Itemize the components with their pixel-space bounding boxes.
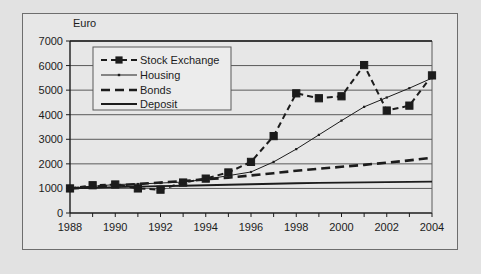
chart-legend: Stock ExchangeHousingBondsDeposit: [93, 47, 231, 110]
chart-frame: 01000200030004000500060007000 1988199019…: [22, 13, 458, 250]
data-point-marker: [406, 102, 413, 109]
line-chart: 01000200030004000500060007000 1988199019…: [23, 14, 457, 249]
x-tick-label: 2002: [375, 221, 399, 233]
data-point-marker: [270, 132, 277, 139]
data-point-marker: [273, 161, 275, 163]
y-tick-label: 5000: [39, 84, 63, 96]
x-axis-tick-labels: 198819901992199419961998200020022004: [58, 221, 444, 233]
data-point-marker: [383, 107, 390, 114]
legend-label: Stock Exchange: [140, 54, 220, 66]
y-tick-label: 0: [57, 207, 63, 219]
data-point-marker: [318, 134, 320, 136]
data-point-marker: [247, 158, 254, 165]
y-tick-label: 3000: [39, 133, 63, 145]
data-point-marker: [361, 61, 368, 68]
x-tick-label: 2000: [329, 221, 353, 233]
y-tick-label: 2000: [39, 158, 63, 170]
y-axis-title: Euro: [73, 17, 96, 29]
data-point-marker: [363, 106, 365, 108]
y-tick-label: 7000: [39, 35, 63, 47]
data-point-marker: [315, 95, 322, 102]
data-point-marker: [338, 93, 345, 100]
x-tick-label: 2004: [420, 221, 444, 233]
legend-marker: [118, 74, 120, 76]
legend-label: Bonds: [140, 84, 172, 96]
data-point-marker: [386, 96, 388, 98]
legend-label: Housing: [140, 69, 180, 81]
data-point-marker: [340, 120, 342, 122]
data-point-marker: [250, 171, 252, 173]
x-tick-label: 1994: [194, 221, 218, 233]
x-tick-label: 1992: [148, 221, 172, 233]
data-point-marker: [295, 148, 297, 150]
data-point-marker: [408, 87, 410, 89]
x-tick-label: 1996: [239, 221, 263, 233]
x-tick-label: 1990: [103, 221, 127, 233]
y-axis-tick-labels: 01000200030004000500060007000: [39, 35, 63, 219]
y-tick-label: 4000: [39, 109, 63, 121]
data-point-marker: [205, 178, 207, 180]
x-tick-label: 1998: [284, 221, 308, 233]
y-tick-label: 6000: [39, 60, 63, 72]
chart-figure: 01000200030004000500060007000 1988199019…: [0, 0, 481, 274]
legend-marker: [115, 56, 122, 63]
series-line-deposit: [70, 182, 432, 189]
x-tick-label: 1988: [58, 221, 82, 233]
y-tick-label: 1000: [39, 182, 63, 194]
legend-label: Deposit: [140, 98, 177, 110]
data-point-marker: [293, 90, 300, 97]
data-point-marker: [137, 183, 139, 185]
data-point-marker: [431, 77, 433, 79]
